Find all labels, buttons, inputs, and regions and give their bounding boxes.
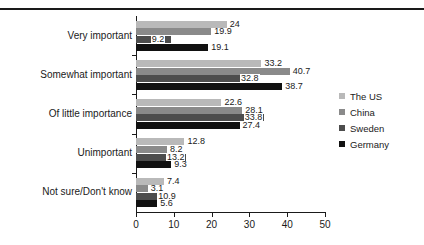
x-axis-tick-label: 50 bbox=[310, 219, 340, 231]
bar-value-label: 19.9 bbox=[214, 27, 232, 36]
legend-item: Sweden bbox=[339, 120, 424, 136]
legend-item: Germany bbox=[339, 136, 424, 152]
legend-item: The US bbox=[339, 88, 424, 104]
x-axis-tick-label: 20 bbox=[197, 219, 227, 231]
legend-swatch-icon bbox=[339, 93, 345, 99]
bar-value-label: 9.3 bbox=[174, 160, 187, 169]
x-axis-tick bbox=[249, 213, 250, 217]
legend-label: Germany bbox=[350, 139, 389, 150]
bar-the-us bbox=[136, 60, 261, 67]
legend-swatch-icon bbox=[339, 125, 345, 131]
bar-value-label: 7.4 bbox=[167, 177, 180, 186]
legend-label: Sweden bbox=[350, 123, 384, 134]
bar-china bbox=[136, 68, 290, 75]
x-axis-line bbox=[136, 212, 326, 213]
x-axis-tick bbox=[287, 213, 288, 217]
x-axis-tick-label: 40 bbox=[272, 219, 302, 231]
category-label: Not sure/Don't know bbox=[2, 186, 132, 198]
y-axis-tick bbox=[132, 134, 136, 135]
bar-germany bbox=[136, 44, 208, 51]
bar-value-label: 19.1 bbox=[211, 43, 229, 52]
legend-label: The US bbox=[350, 91, 382, 102]
x-axis-tick-label: 0 bbox=[121, 219, 151, 231]
bar-china bbox=[136, 185, 148, 192]
bar-value-label: 27.4 bbox=[243, 121, 261, 130]
bar-value-label: 40.7 bbox=[293, 67, 311, 76]
bar-value-label: 12.8 bbox=[187, 137, 205, 146]
legend-item: China bbox=[339, 104, 424, 120]
bar-germany bbox=[136, 122, 240, 129]
category-axis-labels: Very importantSomewhat importantOf littl… bbox=[0, 0, 132, 245]
bar-germany bbox=[136, 161, 171, 168]
category-label: Unimportant bbox=[2, 147, 132, 159]
bar-china bbox=[136, 28, 211, 35]
y-axis-tick bbox=[132, 55, 136, 56]
legend-swatch-icon bbox=[339, 141, 345, 147]
y-axis-tick bbox=[132, 94, 136, 95]
x-axis-tick bbox=[174, 213, 175, 217]
chart-figure: Very importantSomewhat importantOf littl… bbox=[0, 0, 424, 245]
category-label: Of little importance bbox=[2, 108, 132, 120]
legend-label: China bbox=[350, 107, 375, 118]
bar-the-us bbox=[136, 99, 221, 106]
bar-germany bbox=[136, 83, 282, 90]
bar-value-label: 5.6 bbox=[160, 199, 173, 208]
x-axis-tick bbox=[325, 213, 326, 217]
bar-value-label: 38.7 bbox=[285, 82, 303, 91]
bar-germany bbox=[136, 200, 157, 207]
x-axis-tick-label: 10 bbox=[159, 219, 189, 231]
legend-swatch-icon bbox=[339, 109, 345, 115]
x-axis-tick bbox=[136, 213, 137, 217]
category-label: Somewhat important bbox=[2, 69, 132, 81]
bar-the-us bbox=[136, 21, 227, 28]
chart-legend: The USChinaSwedenGermany bbox=[339, 88, 424, 152]
category-label: Very important bbox=[2, 30, 132, 42]
x-axis-tick-label: 30 bbox=[234, 219, 264, 231]
bar-china bbox=[136, 107, 242, 114]
x-axis-tick bbox=[212, 213, 213, 217]
bar-china bbox=[136, 146, 167, 153]
y-axis-tick bbox=[132, 173, 136, 174]
